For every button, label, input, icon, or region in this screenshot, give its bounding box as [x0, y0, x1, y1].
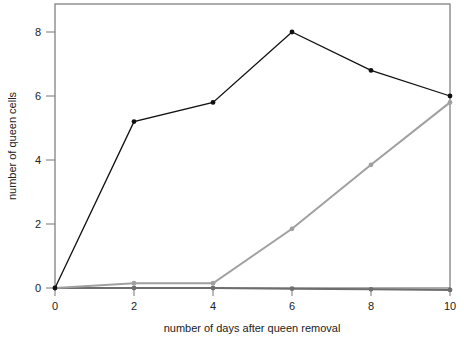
y-tick-label: 8	[35, 26, 41, 38]
x-tick-label: 2	[131, 300, 137, 312]
data-point	[211, 281, 216, 286]
data-point	[290, 226, 295, 231]
y-axis: 02468	[35, 26, 55, 294]
data-point	[369, 162, 374, 167]
data-point	[290, 30, 295, 35]
x-axis: 0246810	[52, 288, 456, 312]
data-point	[132, 281, 137, 286]
series-line	[55, 102, 450, 288]
series-line	[55, 32, 450, 288]
x-tick-label: 6	[289, 300, 295, 312]
data-point	[211, 100, 216, 105]
y-tick-label: 4	[35, 154, 41, 166]
data-point	[369, 287, 374, 292]
data-point	[290, 286, 295, 291]
x-tick-label: 8	[368, 300, 374, 312]
x-tick-label: 0	[52, 300, 58, 312]
x-tick-label: 10	[444, 300, 456, 312]
x-axis-title: number of days after queen removal	[164, 322, 341, 334]
data-point	[132, 286, 137, 291]
series-light-gray	[53, 100, 453, 290]
y-tick-label: 0	[35, 282, 41, 294]
data-point	[211, 286, 216, 291]
y-tick-label: 2	[35, 218, 41, 230]
series-black	[53, 30, 453, 291]
data-point	[132, 119, 137, 124]
line-chart: 02468 0246810 number of days after queen…	[0, 0, 464, 341]
data-point	[448, 100, 453, 105]
data-point	[53, 286, 58, 291]
data-point	[448, 288, 453, 293]
data-point	[369, 68, 374, 73]
data-point	[448, 94, 453, 99]
y-axis-title: number of queen cells	[6, 91, 18, 200]
y-tick-label: 6	[35, 90, 41, 102]
plot-frame	[55, 4, 450, 288]
series-group	[53, 30, 453, 293]
x-tick-label: 4	[210, 300, 216, 312]
series-dark-gray	[53, 286, 453, 293]
